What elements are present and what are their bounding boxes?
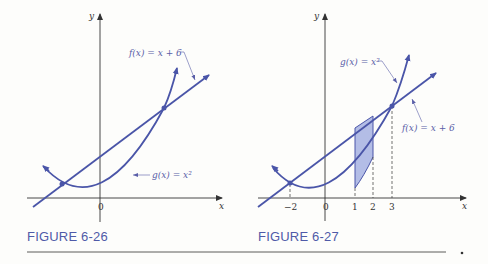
- f-label: f(x) = x + 6: [128, 48, 182, 58]
- x-axis-label: x: [462, 201, 467, 211]
- figure-6-26: y x 0 f(x) = x + 6 g(x) = x²: [27, 11, 244, 252]
- intersection-point: [390, 104, 395, 109]
- figure-caption: FIGURE 6-27: [258, 229, 339, 244]
- f-line: [33, 75, 209, 207]
- intersection-point: [288, 181, 293, 186]
- f-line: [258, 73, 436, 207]
- tick-label-3: 3: [389, 202, 395, 212]
- f-leader-line: [180, 52, 195, 80]
- g-parabola: [273, 55, 409, 188]
- g-leader-line: [378, 61, 397, 83]
- tick-label-neg2: −2: [284, 202, 297, 212]
- f-label: f(x) = x + 6: [401, 123, 455, 133]
- figures-canvas: y x 0 f(x) = x + 6 g(x) = x² y x −2 0 1: [0, 0, 488, 264]
- x-axis-label: x: [219, 201, 224, 211]
- y-axis-label: y: [313, 11, 320, 21]
- tick-label-2: 2: [370, 202, 376, 212]
- bullet-dot: [461, 252, 464, 255]
- origin-label: 0: [323, 202, 329, 212]
- figure-6-27: y x −2 0 1 2 3 g(x) = x² f(x) = x + 6: [244, 11, 467, 254]
- intersection-point: [162, 106, 167, 111]
- g-label: g(x) = x²: [340, 57, 380, 67]
- y-axis-label: y: [88, 11, 95, 21]
- g-label: g(x) = x²: [152, 170, 192, 180]
- tick-label-1: 1: [352, 202, 358, 212]
- intersection-point: [60, 182, 65, 187]
- origin-label: 0: [98, 202, 104, 212]
- figure-caption: FIGURE 6-26: [27, 229, 108, 244]
- f-leader-line: [412, 99, 422, 122]
